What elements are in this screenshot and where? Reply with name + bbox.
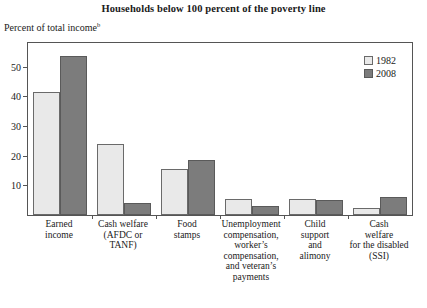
bar-2008	[380, 197, 407, 215]
bar-2008	[188, 160, 215, 215]
bar-pair	[92, 43, 156, 215]
bar-group	[92, 43, 156, 215]
bar-group	[156, 43, 220, 215]
chart-title: Households below 100 percent of the pove…	[0, 3, 427, 14]
bar-group	[284, 43, 348, 215]
legend-swatch-2008-icon	[364, 69, 373, 78]
y-axis-tick-label: 10	[11, 180, 21, 191]
bar-2008	[252, 206, 279, 215]
bar-pair	[156, 43, 220, 215]
bar-2008	[60, 56, 87, 215]
bar-1982	[353, 208, 380, 215]
plot-area: 1020304050	[28, 43, 412, 215]
bar-1982	[225, 199, 252, 215]
bar-1982	[33, 92, 60, 215]
y-axis-label-text: Percent of total income	[4, 22, 97, 33]
y-axis-tick-label: 40	[11, 91, 21, 102]
bar-1982	[161, 169, 188, 215]
legend-label-1982: 1982	[376, 55, 396, 66]
bar-group	[28, 43, 92, 215]
y-axis-label: Percent of total incomeb	[4, 22, 100, 33]
bar-2008	[316, 200, 343, 215]
legend-label-2008: 2008	[376, 68, 396, 79]
bar-pair	[284, 43, 348, 215]
bar-1982	[97, 144, 124, 215]
bar-pair	[220, 43, 284, 215]
y-axis-label-footnote-marker: b	[97, 21, 100, 28]
y-axis-tick-label: 30	[11, 121, 21, 132]
bar-1982	[289, 199, 316, 215]
legend-swatch-1982-icon	[364, 56, 373, 65]
bar-pair	[28, 43, 92, 215]
plot-frame: 1020304050 1982 2008	[27, 42, 413, 216]
y-axis-tick-label: 20	[11, 150, 21, 161]
y-axis-tick-label: 50	[11, 61, 21, 72]
chart-legend: 1982 2008	[364, 55, 396, 81]
bar-2008	[124, 203, 151, 215]
legend-item-2008: 2008	[364, 68, 396, 79]
legend-item-1982: 1982	[364, 55, 396, 66]
bar-group	[220, 43, 284, 215]
x-axis-category-label: Cash welfare for the disabled (SSI)	[341, 219, 417, 261]
